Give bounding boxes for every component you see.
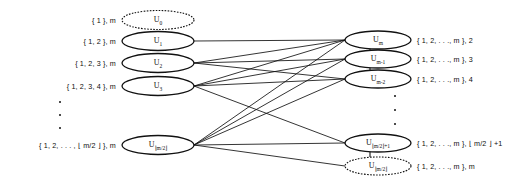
ellipsis-dot	[394, 95, 396, 97]
edges-layer	[194, 40, 345, 166]
graph-edge	[194, 63, 345, 79]
set-label-v_m1: { 1, 2, . . ., m }, 3	[417, 55, 473, 64]
set-label-v_m: { 1, 2, . . ., m }, 2	[417, 36, 473, 45]
graph-edge	[194, 79, 345, 145]
graph-edge	[194, 145, 345, 166]
left-ellipsis-dots	[56, 101, 64, 129]
set-label-u3: { 1, 2, 3, 4 }, m	[67, 82, 116, 91]
set-label-v_half: { 1, 2, . . ., m }, m	[417, 162, 475, 171]
graph-edge	[194, 40, 345, 145]
ellipsis-dot	[394, 123, 396, 125]
ellipsis-dot	[59, 127, 61, 129]
ellipsis-dot	[59, 101, 61, 103]
bipartite-graph-figure: U0{ 1 }, mU1{ 1, 2 }, mU2{ 1, 2, 3 }, mU…	[0, 0, 515, 186]
graph-edge	[194, 79, 345, 86]
set-label-v_halfp1: { 1, 2, . . ., m }, ⌊ m/2 ⌋ +1	[417, 139, 502, 148]
set-label-v_m2: { 1, 2, . . ., m }, 4	[417, 75, 473, 84]
graph-canvas: U0{ 1 }, mU1{ 1, 2 }, mU2{ 1, 2, 3 }, mU…	[0, 0, 515, 186]
set-label-u0: { 1 }, m	[92, 16, 116, 25]
graph-edge	[194, 143, 345, 145]
ellipsis-dot	[59, 114, 61, 116]
set-label-u2: { 1, 2, 3 }, m	[75, 59, 116, 68]
graph-edge	[194, 86, 345, 143]
set-labels-layer: U0{ 1 }, mU1{ 1, 2 }, mU2{ 1, 2, 3 }, mU…	[39, 15, 502, 171]
graph-edge	[194, 40, 345, 41]
right-ellipsis-dots	[391, 95, 399, 125]
set-label-u_half: { 1, 2, . . . , ⌊ m/2 ⌋ }, m	[39, 141, 116, 150]
graph-edge	[194, 59, 345, 145]
ellipsis-dot	[394, 109, 396, 111]
set-label-u1: { 1, 2 }, m	[84, 37, 116, 46]
